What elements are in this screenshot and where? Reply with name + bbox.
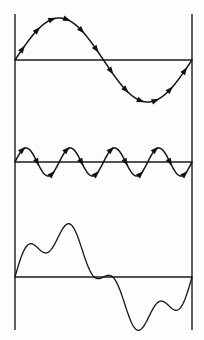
fundamental-wave-panel: [15, 15, 192, 105]
harmonic-wave-panel: [15, 145, 192, 179]
direction-arrow-icon: [136, 97, 145, 105]
direction-arrow-icon: [62, 16, 71, 24]
direction-arrow-icon: [151, 96, 160, 104]
direction-arrow-icon: [47, 169, 57, 179]
direction-arrow-icon: [92, 169, 102, 179]
composite-wave-panel: [15, 224, 192, 331]
waveform-figure-container: [0, 0, 204, 340]
direction-arrow-icon: [180, 169, 190, 179]
direction-arrow-icon: [136, 169, 146, 179]
wave-panels-group: [15, 15, 192, 330]
direction-arrow-icon: [48, 15, 57, 23]
boundary-lines-group: [15, 14, 192, 330]
waveform-figure: [0, 0, 204, 340]
